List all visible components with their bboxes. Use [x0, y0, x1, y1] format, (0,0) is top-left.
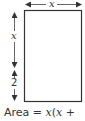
diagram-graphics [0, 0, 85, 121]
caption-suffix: + [62, 106, 75, 119]
rectangle-area-diagram: x x 2 Area = x(x + [0, 0, 85, 121]
rectangle-shape [25, 11, 82, 102]
caption-prefix: Area = [4, 106, 46, 119]
top-dimension-label: x [48, 0, 56, 9]
area-formula-caption: Area = x(x + [4, 106, 75, 120]
left-dimension-x-label: x [10, 31, 18, 41]
left-dimension-2-label: 2 [10, 78, 18, 88]
